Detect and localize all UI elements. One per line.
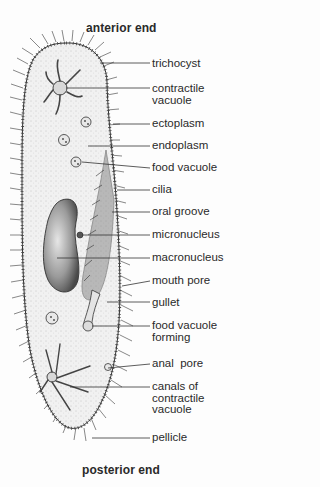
label-food-vacuole-forming: food vacuole forming	[152, 320, 217, 343]
label-ectoplasm: ectoplasm	[152, 118, 204, 130]
label-macronucleus: macronucleus	[152, 252, 224, 264]
label-food-vacuole: food vacuole	[152, 162, 217, 174]
label-anal-pore: anal pore	[152, 358, 203, 370]
posterior-end-title: posterior end	[82, 463, 160, 477]
label-contractile-vacuole: contractile vacuole	[152, 83, 204, 106]
label-pellicle: pellicle	[152, 432, 187, 444]
label-canals-of-contractile-vacuole: canals of contractile vacuole	[152, 381, 204, 416]
label-trichocyst: trichocyst	[152, 58, 201, 70]
label-oral-groove: oral groove	[152, 206, 210, 218]
label-mouth-pore: mouth pore	[152, 275, 210, 287]
label-micronucleus: micronucleus	[152, 229, 220, 241]
label-endoplasm: endoplasm	[152, 140, 208, 152]
label-cilia: cilia	[152, 184, 172, 196]
label-gullet: gullet	[152, 297, 180, 309]
